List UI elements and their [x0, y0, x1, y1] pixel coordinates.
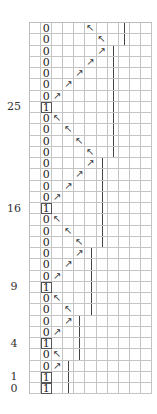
row-label-square: 1 [1, 371, 27, 382]
grid-row: 0↖ [30, 214, 152, 225]
grid-cell [97, 79, 108, 90]
grid-cell: ↖ [52, 113, 63, 124]
grid-cell [97, 259, 108, 270]
grid-cell [85, 34, 96, 45]
grid-cell [130, 282, 141, 293]
grid-cell [141, 338, 152, 349]
grid-cell [63, 383, 74, 394]
arrow-up-left-icon: ↖ [85, 146, 95, 158]
grid-cell [119, 169, 130, 180]
grid-cell [52, 248, 63, 259]
vertical-bar-marker [113, 91, 114, 101]
grid-cell [63, 91, 74, 102]
grid-cell: ↗ [74, 68, 85, 79]
grid-cell [108, 361, 119, 372]
grid-cell [119, 338, 130, 349]
grid-cell: ↗ [97, 46, 108, 57]
grid-cell [141, 113, 152, 124]
grid-cell [108, 57, 119, 68]
vertical-bar-marker [102, 192, 103, 202]
grid-cell: ↗ [63, 181, 74, 192]
arrow-up-left-icon: ↖ [52, 112, 62, 124]
grid-cell [63, 102, 74, 113]
grid-cell [119, 46, 130, 57]
vertical-bar-marker [68, 383, 69, 393]
arrow-up-right-icon: ↗ [74, 247, 84, 259]
grid-cell [108, 304, 119, 315]
grid-cell [52, 383, 63, 394]
grid-cell [30, 248, 41, 259]
grid-cell [130, 57, 141, 68]
grid-cell [141, 237, 152, 248]
grid-cell [130, 327, 141, 338]
grid-cell [97, 372, 108, 383]
grid-cell [141, 214, 152, 225]
grid-cell [85, 271, 96, 282]
grid-cell [97, 304, 108, 315]
grid-cell: ↗ [52, 192, 63, 203]
grid-cell: 0 [41, 259, 52, 270]
grid-cell: 0 [41, 349, 52, 360]
digit-zero: 0 [41, 169, 51, 180]
grid-cell [74, 102, 85, 113]
grid-cell [30, 338, 41, 349]
grid-cell [63, 34, 74, 45]
arrow-up-left-icon: ↖ [85, 22, 95, 34]
grid-cell [108, 203, 119, 214]
grid-cell [97, 57, 108, 68]
grid-cell [141, 383, 152, 394]
vertical-bar-marker [102, 181, 103, 191]
grid-cell [130, 113, 141, 124]
grid-cell [130, 79, 141, 90]
grid-cell [97, 361, 108, 372]
grid-row: 0↖ [30, 124, 152, 135]
grid-cell [30, 383, 41, 394]
grid-cell [85, 237, 96, 248]
grid-cell: ↗ [63, 316, 74, 327]
grid-cell [119, 147, 130, 158]
vertical-bar-marker [102, 226, 103, 236]
grid-cell [63, 282, 74, 293]
arrow-up-right-icon: ↗ [52, 191, 62, 203]
grid-cell [30, 91, 41, 102]
grid-cell [97, 349, 108, 360]
grid-cell [108, 46, 119, 57]
arrow-up-right-icon: ↗ [52, 270, 62, 282]
grid-cell [52, 237, 63, 248]
grid-cell [130, 158, 141, 169]
grid-cell [141, 46, 152, 57]
grid-cell: ↗ [63, 259, 74, 270]
grid-cell [108, 91, 119, 102]
grid-cell [85, 113, 96, 124]
grid-cell [52, 158, 63, 169]
grid-cell [141, 282, 152, 293]
grid-row: 0↗ [30, 169, 152, 180]
grid-cell [130, 293, 141, 304]
grid-cell: ↗ [74, 169, 85, 180]
grid-cell [119, 316, 130, 327]
grid-cell [63, 57, 74, 68]
grid-cell [52, 124, 63, 135]
grid-cell [108, 327, 119, 338]
arrow-up-right-icon: ↗ [63, 78, 73, 90]
digit-zero: 0 [41, 181, 51, 192]
grid-cell [119, 248, 130, 259]
grid-cell [97, 203, 108, 214]
grid-cell [52, 57, 63, 68]
grid-cell [130, 23, 141, 34]
row-label-square: 0 [1, 383, 27, 394]
grid-cell [108, 226, 119, 237]
grid-cell [119, 68, 130, 79]
grid-cell [85, 293, 96, 304]
grid-cell [30, 203, 41, 214]
grid-cell [97, 91, 108, 102]
grid-cell [63, 23, 74, 34]
arrow-up-right-icon: ↗ [63, 315, 73, 327]
grid-cell [130, 46, 141, 57]
grid-cell [130, 248, 141, 259]
grid-cell [85, 68, 96, 79]
grid-cell [119, 158, 130, 169]
grid-cell: 0 [41, 79, 52, 90]
grid-cell [130, 372, 141, 383]
grid-cell [108, 79, 119, 90]
